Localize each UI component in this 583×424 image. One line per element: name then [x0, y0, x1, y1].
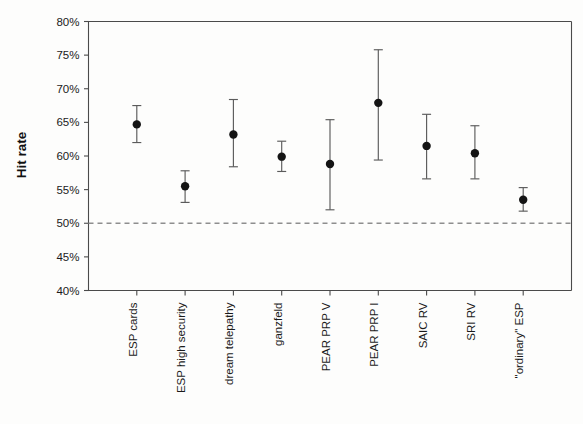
- data-point-marker: [326, 160, 334, 168]
- y-tick-label-60: 60%: [56, 150, 79, 162]
- data-point-marker: [181, 182, 189, 190]
- x-tick-label-6: SAIC RV: [417, 302, 429, 348]
- hit-rate-error-bar-chart: Hit rate 40%45%50%55%60%65%70%75%80% ESP…: [0, 0, 583, 424]
- x-tick-label-8: "ordinary" ESP: [513, 302, 525, 378]
- y-tick-label-75: 75%: [56, 49, 79, 61]
- data-point-marker: [229, 130, 237, 138]
- data-point-marker: [133, 120, 141, 128]
- y-tick-label-40: 40%: [56, 285, 79, 297]
- data-point-marker: [374, 99, 382, 107]
- y-tick-label-50: 50%: [56, 217, 79, 229]
- x-tick-label-5: PEAR PRP I: [368, 303, 380, 367]
- data-point-marker: [519, 196, 527, 204]
- y-axis-label-text: Hit rate: [14, 131, 29, 178]
- data-point-marker: [278, 152, 286, 160]
- y-tick-label-65: 65%: [56, 116, 79, 128]
- data-point-marker: [471, 149, 479, 157]
- y-axis-label: Hit rate: [14, 131, 29, 178]
- x-tick-label-2: dream telepathy: [223, 302, 235, 385]
- chart-background: [0, 0, 583, 424]
- chart-container: Hit rate 40%45%50%55%60%65%70%75%80% ESP…: [0, 0, 583, 424]
- x-tick-label-1: ESP high security: [175, 302, 187, 393]
- y-tick-label-70: 70%: [56, 83, 79, 95]
- y-tick-label-55: 55%: [56, 184, 79, 196]
- x-tick-label-7: SRI RV: [465, 302, 477, 340]
- x-tick-label-4: PEAR PRP V: [320, 302, 332, 371]
- x-tick-label-3: ganzfeld: [272, 303, 284, 346]
- y-tick-label-80: 80%: [56, 16, 79, 28]
- y-tick-label-45: 45%: [56, 251, 79, 263]
- data-point-marker: [422, 142, 430, 150]
- x-tick-label-0: ESP cards: [127, 302, 139, 356]
